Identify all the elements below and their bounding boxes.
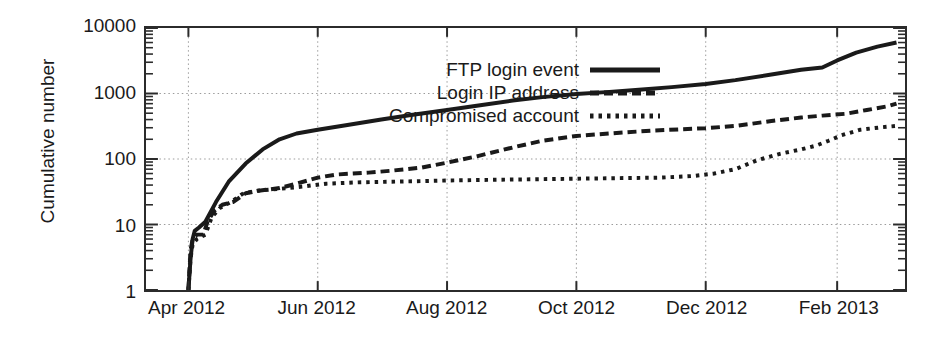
x-tick-label: Aug 2012 — [387, 297, 507, 319]
y-axis-tick-labels: 100001000100101 — [0, 0, 136, 343]
legend-item-1: Login IP address — [332, 81, 662, 104]
legend-label: Compromised account — [389, 106, 579, 125]
plot-area: FTP login eventLogin IP addressCompromis… — [144, 26, 907, 292]
x-tick-label: Feb 2013 — [779, 297, 899, 319]
x-tick-label: Apr 2012 — [127, 297, 247, 319]
legend-line-sample — [588, 86, 662, 100]
y-tick-label: 100 — [104, 149, 136, 168]
legend-item-0: FTP login event — [332, 58, 662, 81]
x-tick-label: Oct 2012 — [517, 297, 637, 319]
y-tick-label: 10000 — [83, 16, 136, 35]
chart-figure: Cumulative number 100001000100101 FTP lo… — [0, 0, 935, 343]
x-tick-label: Dec 2012 — [647, 297, 767, 319]
legend-label: Login IP address — [437, 83, 579, 102]
chart-legend: FTP login eventLogin IP addressCompromis… — [332, 58, 662, 127]
y-tick-label: 1000 — [94, 83, 136, 102]
legend-item-2: Compromised account — [332, 104, 662, 127]
legend-line-sample — [588, 109, 662, 123]
x-tick-label: Jun 2012 — [257, 297, 377, 319]
legend-line-sample — [588, 63, 662, 77]
y-tick-label: 10 — [115, 216, 136, 235]
x-axis-tick-labels: Apr 2012Jun 2012Aug 2012Oct 2012Dec 2012… — [0, 297, 935, 327]
legend-label: FTP login event — [446, 60, 579, 79]
